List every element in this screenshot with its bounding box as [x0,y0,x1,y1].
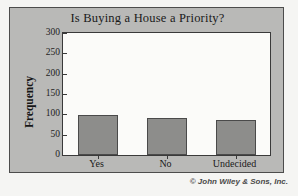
bar [147,118,187,155]
y-tick-label: 50 [51,129,61,139]
y-tick: 50 [63,135,67,136]
y-tick-label: 200 [46,68,60,78]
x-tick-label: Undecided [213,158,256,169]
copyright-credit: © John Wiley & Sons, Inc. [190,177,288,186]
figure-container: Is Buying a House a Priority? Frequency … [0,0,298,196]
bar [216,120,256,155]
y-tick-label: 250 [46,47,60,57]
plot-area: 050100150200250300 [62,32,271,156]
chart-title: Is Buying a House a Priority? [10,11,285,26]
y-tick: 250 [63,53,67,54]
y-tick-label: 300 [46,27,60,37]
y-tick: 300 [63,33,67,34]
y-tick: 100 [63,114,67,115]
x-tick-label: No [159,158,171,169]
y-tick: 150 [63,94,67,95]
chart-panel: Is Buying a House a Priority? Frequency … [9,7,284,173]
y-tick: 200 [63,74,67,75]
y-tick-label: 0 [55,149,60,159]
y-axis-title: Frequency [23,54,35,150]
y-tick: 0 [63,155,67,156]
y-tick-label: 150 [46,88,60,98]
bar [78,115,118,155]
x-tick-label: Yes [89,158,104,169]
y-tick-label: 100 [46,108,60,118]
